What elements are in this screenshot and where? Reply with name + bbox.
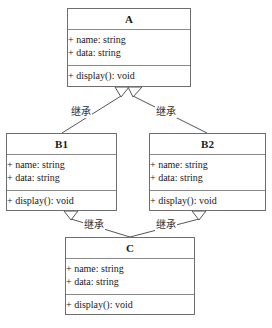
class-name: C xyxy=(66,238,194,259)
operation: + display(): void xyxy=(68,69,190,82)
generalization-arrowhead-icon xyxy=(128,87,142,97)
attribute-compartment: + name: string + data: string xyxy=(7,155,116,191)
attribute: + name: string xyxy=(68,33,190,46)
operation-compartment: + display(): void xyxy=(68,66,190,84)
generalization-arrowhead-icon xyxy=(192,211,206,220)
relation-label-c-b1: 继承 xyxy=(83,219,105,231)
attribute: + data: string xyxy=(7,171,116,184)
attribute: + name: string xyxy=(150,158,265,171)
operation-compartment: + display(): void xyxy=(7,191,116,209)
attribute: + data: string xyxy=(68,46,190,59)
attribute: + data: string xyxy=(150,171,265,184)
class-box-b1[interactable]: B1 + name: string + data: string + displ… xyxy=(6,133,117,211)
operation: + display(): void xyxy=(66,298,194,311)
operation: + display(): void xyxy=(7,194,116,207)
relation-label-b1-a: 继承 xyxy=(70,106,92,118)
class-box-c[interactable]: C + name: string + data: string + displa… xyxy=(65,237,195,315)
operation: + display(): void xyxy=(150,194,265,207)
attribute: + name: string xyxy=(66,262,194,275)
operation-compartment: + display(): void xyxy=(150,191,265,209)
attribute-compartment: + name: string + data: string xyxy=(150,155,265,191)
operation-compartment: + display(): void xyxy=(66,295,194,313)
attribute: + name: string xyxy=(7,158,116,171)
attribute-compartment: + name: string + data: string xyxy=(66,259,194,295)
relation-label-b2-a: 继承 xyxy=(155,106,177,118)
class-box-b2[interactable]: B2 + name: string + data: string + displ… xyxy=(149,133,266,211)
generalization-arrowhead-icon xyxy=(64,211,78,220)
relation-label-c-b2: 继承 xyxy=(155,219,177,231)
attribute-compartment: + name: string + data: string xyxy=(68,30,190,66)
class-name: B1 xyxy=(7,134,116,155)
class-name: B2 xyxy=(150,134,265,155)
generalization-arrowhead-icon xyxy=(115,87,129,97)
class-name: A xyxy=(68,9,190,30)
attribute: + data: string xyxy=(66,275,194,288)
class-box-a[interactable]: A + name: string + data: string + displa… xyxy=(67,8,191,87)
